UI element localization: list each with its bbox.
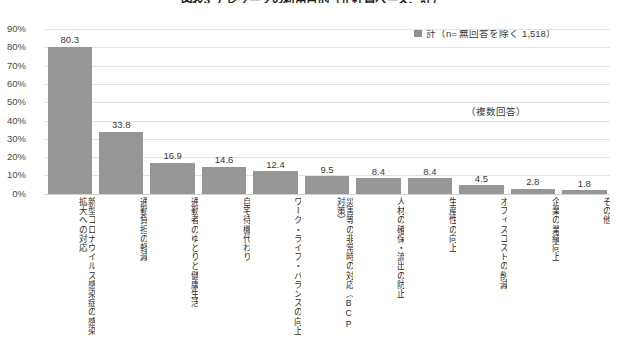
bar-slot[interactable]: 2.8 <box>507 29 558 194</box>
bar-series: 80.333.816.914.612.49.58.48.44.52.81.8 <box>44 29 610 194</box>
bar-value-label: 9.5 <box>301 164 352 175</box>
bar-slot[interactable]: 8.4 <box>404 29 455 194</box>
category-label: 自宅待機代わり <box>198 197 249 339</box>
bar-value-label: 33.8 <box>95 119 146 130</box>
category-label-text: その他 <box>601 197 610 225</box>
y-axis-tick-label: 20% <box>0 151 26 162</box>
bar-value-label: 8.4 <box>353 166 404 177</box>
y-axis-tick-label: 0% <box>0 188 26 199</box>
y-axis-tick-label: 70% <box>0 60 26 71</box>
category-label: 人材の確保・流出の防止 <box>353 197 404 339</box>
bar-slot[interactable]: 16.9 <box>147 29 198 194</box>
bar-value-label: 16.9 <box>147 150 198 161</box>
category-label: 通勤者のゆとりと健康生活 <box>147 197 198 339</box>
category-label-text: ワーク・ライフ・バランスの向上 <box>292 197 301 335</box>
chart-title: 図表3 テレワークの利用目的（正社員ベース、計） <box>0 0 624 3</box>
category-label: その他 <box>559 197 610 339</box>
bar[interactable] <box>48 47 93 194</box>
bar-slot[interactable]: 12.4 <box>250 29 301 194</box>
category-label-text: 生産性の向上 <box>447 197 456 252</box>
bar[interactable] <box>202 167 247 194</box>
bar[interactable] <box>253 171 298 194</box>
category-label-text: オフィスコストの削減 <box>498 197 507 289</box>
category-label-text: 企業の業績向上 <box>549 197 558 261</box>
bar-value-label: 8.4 <box>404 166 455 177</box>
bar-slot[interactable]: 8.4 <box>353 29 404 194</box>
category-label-text: 新型コロナウイルス感染症の感染拡大への対応 <box>77 197 95 337</box>
bar-slot[interactable]: 80.3 <box>44 29 95 194</box>
category-label: 生産性の向上 <box>404 197 455 339</box>
bar-value-label: 12.4 <box>250 159 301 170</box>
y-axis-tick-label: 60% <box>0 78 26 89</box>
bar-slot[interactable]: 14.6 <box>198 29 249 194</box>
bar[interactable] <box>408 178 453 193</box>
category-label: 企業の業績向上 <box>507 197 558 339</box>
gridline <box>44 194 610 195</box>
bar[interactable] <box>150 163 195 194</box>
plot-area: 80.333.816.914.612.49.58.48.44.52.81.8 9… <box>44 29 610 194</box>
bar[interactable] <box>305 176 350 193</box>
bar-value-label: 2.8 <box>507 176 558 187</box>
category-label-text: 災害等の非常時の対応（BCP対策） <box>335 197 353 337</box>
category-label-text: 自宅待機代わり <box>241 197 250 261</box>
y-axis-tick-label: 40% <box>0 115 26 126</box>
bar-value-label: 4.5 <box>456 173 507 184</box>
y-axis-tick-label: 10% <box>0 169 26 180</box>
y-axis-tick-label: 30% <box>0 133 26 144</box>
bar[interactable] <box>356 178 401 193</box>
y-axis-tick-label: 80% <box>0 41 26 52</box>
bar[interactable] <box>562 190 607 193</box>
y-axis-tick-label: 50% <box>0 96 26 107</box>
bar-slot[interactable]: 9.5 <box>301 29 352 194</box>
bar-slot[interactable]: 1.8 <box>559 29 610 194</box>
bar-slot[interactable]: 4.5 <box>456 29 507 194</box>
category-label: 災害等の非常時の対応（BCP対策） <box>301 197 352 339</box>
category-label: ワーク・ライフ・バランスの向上 <box>250 197 301 339</box>
category-label-text: 人材の確保・流出の防止 <box>395 197 404 298</box>
category-label: 通勤負担の軽減 <box>95 197 146 339</box>
category-label: 新型コロナウイルス感染症の感染拡大への対応 <box>44 197 95 339</box>
bar-slot[interactable]: 33.8 <box>95 29 146 194</box>
category-label: オフィスコストの削減 <box>456 197 507 339</box>
y-axis-tick-label: 90% <box>0 23 26 34</box>
bar-value-label: 80.3 <box>44 34 95 45</box>
bar[interactable] <box>511 189 556 194</box>
bar-chart: 図表3 テレワークの利用目的（正社員ベース、計） 計（n= 無回答を除く 1,5… <box>0 0 624 339</box>
category-label-text: 通勤者のゆとりと健康生活 <box>189 197 198 307</box>
bar[interactable] <box>459 185 504 193</box>
bar-value-label: 14.6 <box>198 154 249 165</box>
category-label-text: 通勤負担の軽減 <box>138 197 147 261</box>
bar[interactable] <box>99 132 144 194</box>
bar-value-label: 1.8 <box>559 178 610 189</box>
